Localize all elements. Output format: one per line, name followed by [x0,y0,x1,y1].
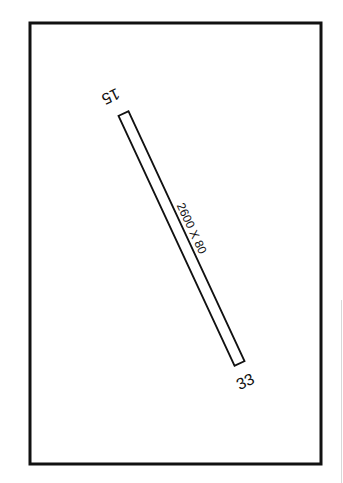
diagram-border [30,23,321,464]
page-edge-line [341,300,342,483]
runway-end-33-label: 33 [234,370,257,393]
runway [119,111,245,366]
airport-diagram: 2600 X 80 15 33 [0,0,343,483]
runway-outline [119,111,245,366]
runway-end-15-label: 15 [99,85,122,108]
